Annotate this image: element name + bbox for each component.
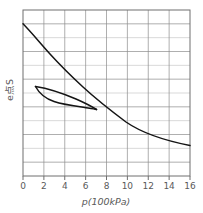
x-tick-label-16: 16 bbox=[184, 181, 196, 191]
x-axis-title: p(100kPa) bbox=[81, 196, 131, 207]
x-axis-tickmarks bbox=[23, 176, 190, 180]
x-tick-label-6: 6 bbox=[83, 181, 89, 191]
x-tick-label-0: 0 bbox=[20, 181, 26, 191]
plot-svg: 0 2 4 6 8 10 12 14 16 p(100kPa) e点S bbox=[0, 0, 203, 213]
x-axis-tick-labels: 0 2 4 6 8 10 12 14 16 bbox=[20, 181, 196, 191]
x-tick-label-8: 8 bbox=[104, 181, 110, 191]
x-tick-label-2: 2 bbox=[41, 181, 47, 191]
x-tick-label-10: 10 bbox=[122, 181, 134, 191]
x-tick-label-12: 12 bbox=[143, 181, 154, 191]
figure-container: 0 2 4 6 8 10 12 14 16 p(100kPa) e点S bbox=[0, 0, 203, 213]
x-tick-label-4: 4 bbox=[62, 181, 68, 191]
x-tick-label-14: 14 bbox=[163, 181, 175, 191]
y-axis-title: e点S bbox=[4, 79, 15, 101]
